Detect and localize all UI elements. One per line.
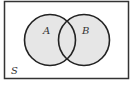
venn-diagram: A B S [0,0,133,85]
set-a-label: A [42,25,50,36]
universe-label: S [11,65,18,76]
set-b-label: B [81,25,89,36]
